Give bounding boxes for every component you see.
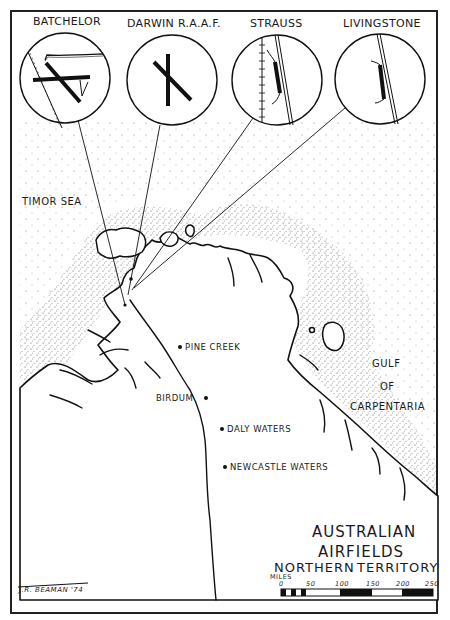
map-title-line4: TERRITORY [357, 560, 438, 575]
inset-title-strauss: STRAUSS [250, 17, 303, 30]
inset-title-batchelor: BATCHELOR [33, 15, 101, 28]
label-of: OF [380, 381, 395, 392]
label-daly-waters: DALY WATERS [227, 424, 291, 434]
label-birdum: BIRDUM [156, 393, 193, 403]
label-gulf: GULF [372, 358, 400, 369]
scale-tick-250: 250 [425, 580, 439, 588]
map-title-line2: AIRFIELDS [318, 543, 404, 561]
inset-livingstone-drawing [335, 34, 425, 124]
scale-tick-100: 100 [335, 580, 349, 588]
artist-signature: J.R. BEAMAN '74 [19, 586, 83, 594]
label-pine-creek: PINE CREEK [185, 342, 240, 352]
scale-bar-graphic [281, 589, 433, 596]
label-carpentaria: CARPENTARIA [350, 401, 425, 412]
label-newcastle-waters: NEWCASTLE WATERS [230, 462, 328, 472]
inset-darwin-drawing [127, 35, 217, 125]
inset-title-darwin: DARWIN R.A.A.F. [127, 17, 221, 30]
inset-strauss-drawing [232, 35, 322, 125]
scale-tick-200: 200 [396, 580, 410, 588]
label-timor-sea: TIMOR SEA [22, 196, 82, 207]
scale-tick-50: 50 [306, 580, 315, 588]
map-title-line1: AUSTRALIAN [312, 523, 416, 541]
inset-batchelor-drawing [20, 33, 110, 128]
inset-title-livingstone: LIVINGSTONE [343, 17, 421, 30]
scale-tick-0: 0 [279, 580, 284, 588]
scale-tick-150: 150 [366, 580, 380, 588]
